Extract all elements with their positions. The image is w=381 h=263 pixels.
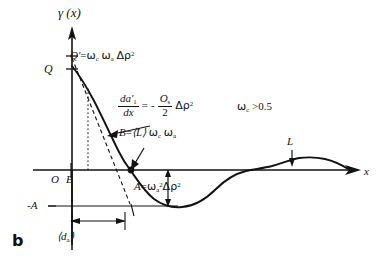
derivative-rel: = (142, 100, 148, 111)
amplitude-omega-a: ω (147, 180, 156, 193)
leader-b-point-head (131, 159, 139, 170)
derivative-exponent: 2 (190, 100, 193, 107)
derivative-rhs-fraction: Os 2 (158, 93, 173, 118)
leader-L-head (289, 158, 295, 167)
y-axis-label: γ (x) (58, 6, 81, 19)
q-prime-lhs: Q' (70, 49, 80, 61)
b-omega-c: ω (149, 126, 158, 139)
amplitude-lhs: A (134, 180, 141, 192)
q-prime-sub-c: c (96, 55, 99, 62)
b-sub-c: c (158, 132, 161, 139)
derivative-denominator: dx (118, 107, 139, 118)
q-prime-exponent: 2 (131, 50, 134, 57)
q-prime-omega-a: ω (102, 49, 111, 62)
tick-E-label: E (66, 174, 73, 185)
plot-canvas (0, 0, 381, 263)
b-sub-a: a (173, 132, 176, 139)
derivative-delta-rho-group: Δρ2 (175, 100, 193, 111)
derivative-rhs-num: Os (158, 93, 173, 107)
derivative-numerator: da'1 (118, 93, 139, 107)
derivative-num-text: da' (120, 92, 133, 104)
condition-sub: c (246, 106, 249, 113)
mean-chord-label: ⟨da⟩ (57, 231, 74, 244)
figure-panel: γ (x) Q Q'=ωc ωa Δρ2 da'1 dx = - Os 2 Δρ… (0, 0, 381, 263)
amplitude-exponent: 2 (177, 181, 180, 188)
b-lhs: B (119, 126, 126, 138)
b-point-equation: B=⟨L⟩ ωc ωa (119, 127, 176, 140)
derivative-fraction: da'1 dx (118, 93, 139, 118)
derivative-rhs-den: 2 (158, 107, 173, 118)
b-mean-L: ⟨L⟩ (132, 126, 146, 138)
amplitude-equation: A=ωa2Δρ2 (134, 181, 181, 194)
condition-value: 0.5 (258, 100, 272, 112)
q-prime-sub-a: a (111, 55, 114, 62)
origin-label: O (51, 174, 59, 185)
condition-omega: ω (237, 100, 246, 113)
hump-label-L: L (287, 136, 293, 147)
mean-chord-close: ⟩ (70, 230, 74, 242)
condition-annotation: ωc >0.5 (237, 101, 272, 114)
q-prime-omega-c: ω (87, 49, 96, 62)
derivative-rhs-num-text: O (160, 92, 168, 104)
q-prime-equation: Q'=ωc ωa Δρ2 (70, 50, 134, 63)
derivative-equation: da'1 dx = - Os 2 Δρ2 (118, 93, 193, 118)
derivative-delta-rho: Δρ (175, 99, 190, 112)
x-axis-label: x (364, 166, 369, 177)
derivative-rhs-num-sub: s (168, 98, 171, 105)
amplitude-delta-rho: Δρ (163, 180, 178, 193)
b-omega-a: ω (164, 126, 173, 139)
y-value-Q-label: Q (44, 63, 53, 75)
neg-A-label: -A (27, 200, 37, 211)
derivative-sign: - (151, 100, 155, 111)
panel-label: b (12, 233, 23, 249)
q-prime-delta-rho: Δρ (117, 49, 132, 62)
mean-chord-open: ⟨d (57, 230, 67, 242)
derivative-num-sub: 1 (133, 98, 136, 105)
